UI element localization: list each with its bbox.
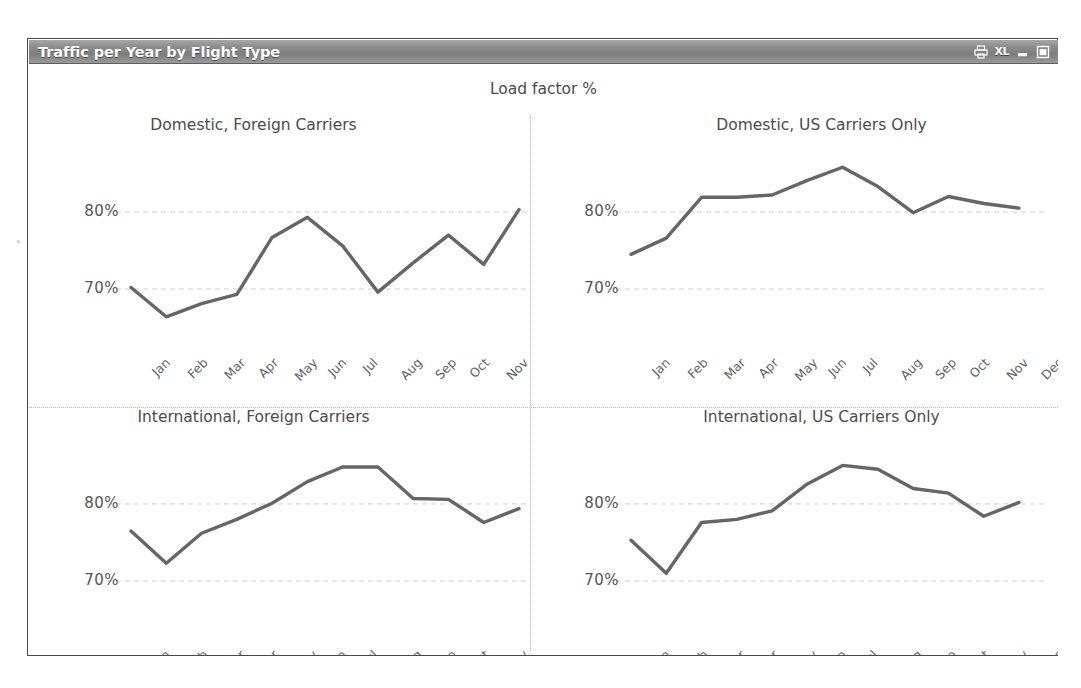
x-axis-tick-label: Oct — [967, 355, 993, 381]
gridlines — [607, 212, 1045, 289]
x-axis-tick-label: Nov — [503, 355, 530, 383]
chart-plot-area — [131, 450, 519, 635]
x-axis-tick-label: Apr — [255, 647, 281, 655]
x-axis-labels: JanFebMarAprMayJunJulAugSepOctNovDec — [631, 351, 1019, 395]
x-axis-tick-label: Jul — [859, 355, 880, 376]
chart-pane-domestic-us: Domestic, US Carriers Only 70%80% JanFeb… — [557, 116, 1058, 407]
y-axis-tick-label: 80% — [57, 202, 119, 220]
minimize-icon[interactable] — [1016, 45, 1029, 58]
x-axis-tick-label: May — [792, 647, 821, 655]
x-axis-tick-label: Sep — [932, 647, 959, 655]
x-axis-tick-label: Mar — [220, 647, 247, 655]
print-icon[interactable] — [974, 45, 988, 59]
x-axis-labels: JanFebMarAprMayJunJulAugSepOctNovDec — [131, 351, 519, 395]
x-axis-tick-label: Jun — [825, 647, 849, 655]
x-axis-tick-label: Nov — [1003, 355, 1031, 383]
chart-title: International, US Carriers Only — [557, 408, 1058, 426]
x-axis-tick-label: May — [292, 355, 321, 384]
x-axis-tick-label: Dec — [1038, 355, 1058, 383]
data-line — [631, 167, 1019, 254]
x-axis-labels: JanFebMarAprMayJunJulAugSepOctNovDec — [631, 643, 1019, 655]
x-axis-tick-label: Nov — [503, 647, 530, 655]
x-axis-tick-label: Jul — [859, 647, 880, 655]
x-axis-tick-label: Mar — [720, 647, 747, 655]
window-controls: XL — [974, 45, 1051, 59]
x-axis-labels: JanFebMarAprMayJunJulAugSepOctNovDec — [131, 643, 519, 655]
x-axis-tick-label: Aug — [897, 355, 925, 383]
maximize-icon[interactable] — [1036, 45, 1050, 59]
x-axis-tick-label: Jul — [359, 647, 380, 655]
x-axis-tick-label: Sep — [432, 647, 459, 655]
excel-icon[interactable]: XL — [995, 46, 1010, 57]
x-axis-tick-label: Apr — [755, 647, 781, 655]
x-axis-tick-label: Mar — [220, 355, 247, 382]
x-axis-tick-label: Aug — [397, 647, 425, 655]
x-axis-tick-label: Nov — [1003, 647, 1031, 655]
x-axis-tick-label: Jun — [825, 355, 849, 379]
y-axis-tick-label: 70% — [557, 571, 619, 589]
x-axis-tick-label: Sep — [432, 355, 459, 382]
x-axis-tick-label: Jan — [649, 647, 673, 655]
data-line — [131, 467, 519, 563]
x-axis-tick-label: Apr — [255, 355, 281, 381]
chart-plot-area — [631, 450, 1019, 635]
pane-divider-vertical — [530, 116, 531, 651]
x-axis-tick-label: Dec — [1038, 647, 1058, 655]
x-axis-tick-label: Jul — [359, 355, 380, 376]
x-axis-tick-label: Jun — [325, 647, 349, 655]
x-axis-tick-label: Aug — [397, 355, 425, 383]
y-axis-tick-label: 80% — [557, 202, 619, 220]
y-axis-tick-label: 70% — [57, 279, 119, 297]
window-title: Traffic per Year by Flight Type — [38, 44, 280, 60]
x-axis-tick-label: Oct — [467, 355, 493, 381]
window-titlebar[interactable]: Traffic per Year by Flight Type XL — [29, 40, 1058, 64]
measure-title: Load factor % — [29, 80, 1058, 98]
x-axis-tick-label: May — [792, 355, 821, 384]
y-axis-tick-label: 80% — [57, 494, 119, 512]
report-canvas: Load factor % Domestic, Foreign Carriers… — [29, 64, 1058, 655]
x-axis-tick-label: Mar — [720, 355, 747, 382]
x-axis-tick-label: Jan — [149, 647, 173, 655]
data-line — [131, 210, 519, 317]
chart-pane-international-foreign: International, Foreign Carriers 70%80% J… — [29, 408, 530, 655]
chart-title: International, Foreign Carriers — [29, 408, 530, 426]
x-axis-tick-label: Feb — [185, 647, 211, 655]
chart-title: Domestic, Foreign Carriers — [29, 116, 530, 134]
gridlines — [107, 504, 530, 581]
y-axis-tick-label: 70% — [57, 571, 119, 589]
x-axis-tick-label: Oct — [467, 647, 493, 655]
chart-plot-area — [631, 158, 1019, 343]
x-axis-tick-label: Jan — [149, 355, 173, 379]
x-axis-tick-label: Feb — [185, 355, 211, 381]
report-window: Traffic per Year by Flight Type XL — [27, 38, 1058, 656]
chart-pane-international-us: International, US Carriers Only 70%80% J… — [557, 408, 1058, 655]
screenshot-root: Traffic per Year by Flight Type XL — [0, 0, 1081, 688]
x-axis-tick-label: May — [292, 647, 321, 655]
x-axis-tick-label: Jan — [649, 355, 673, 379]
scan-artifact-speck — [17, 240, 20, 243]
chart-pane-domestic-foreign: Domestic, Foreign Carriers 70%80% JanFeb… — [29, 116, 530, 407]
x-axis-tick-label: Jun — [325, 355, 349, 379]
x-axis-tick-label: Oct — [967, 647, 993, 655]
gridlines — [607, 504, 1045, 581]
chart-title: Domestic, US Carriers Only — [557, 116, 1058, 134]
y-axis-tick-label: 70% — [557, 279, 619, 297]
data-line — [631, 465, 1019, 573]
x-axis-tick-label: Feb — [685, 355, 711, 381]
x-axis-tick-label: Feb — [685, 647, 711, 655]
y-axis-tick-label: 80% — [557, 494, 619, 512]
chart-plot-area — [131, 158, 519, 343]
x-axis-tick-label: Sep — [932, 355, 959, 382]
x-axis-tick-label: Aug — [897, 647, 925, 655]
x-axis-tick-label: Apr — [755, 355, 781, 381]
